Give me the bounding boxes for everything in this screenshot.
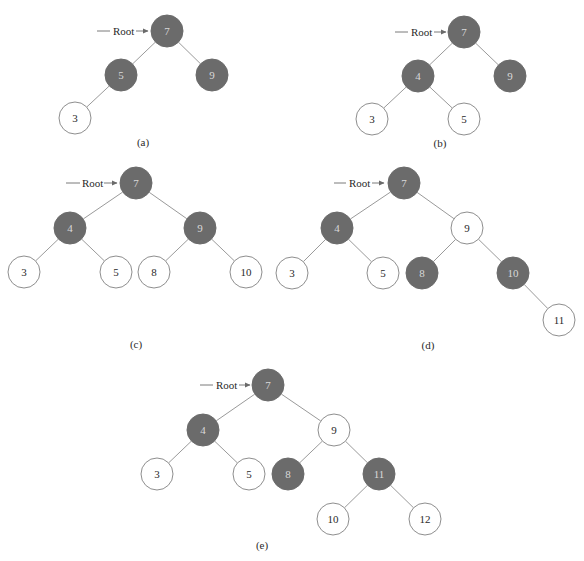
node-label: 9 bbox=[507, 70, 513, 82]
edge-4-5 bbox=[215, 441, 238, 463]
node-label: 7 bbox=[164, 25, 170, 37]
root-label: Root bbox=[216, 379, 237, 391]
node-9-black: 9 bbox=[184, 212, 216, 244]
edge-7-4 bbox=[430, 43, 453, 65]
edge-4-3 bbox=[169, 441, 192, 463]
edge-7-9 bbox=[281, 394, 321, 421]
edge-4-5 bbox=[430, 87, 453, 108]
edge-4-5 bbox=[82, 239, 105, 261]
edge-9-11 bbox=[345, 441, 367, 463]
edge-7-4 bbox=[350, 192, 390, 219]
root-label: Root bbox=[349, 177, 370, 189]
caption-a: (a) bbox=[137, 136, 150, 149]
edge-9-8 bbox=[166, 239, 189, 261]
node-label: 12 bbox=[420, 513, 431, 525]
node-label: 3 bbox=[21, 266, 27, 278]
tree-b: Root74935(b) bbox=[356, 16, 526, 150]
node-label: 7 bbox=[401, 177, 407, 189]
tree-d: Root7493581011(d) bbox=[276, 167, 575, 352]
node-label: 7 bbox=[461, 26, 467, 38]
edge-10-11 bbox=[524, 284, 548, 308]
node-5-red: 5 bbox=[100, 256, 132, 288]
node-7-black: 7 bbox=[252, 369, 284, 401]
node-label: 9 bbox=[197, 222, 203, 234]
edge-7-9 bbox=[178, 42, 200, 64]
node-8-black: 8 bbox=[406, 257, 438, 289]
node-4-black: 4 bbox=[402, 60, 434, 92]
node-label: 10 bbox=[508, 267, 520, 279]
edge-9-8 bbox=[300, 441, 323, 463]
node-label: 4 bbox=[334, 222, 340, 234]
edge-4-3 bbox=[303, 239, 325, 261]
node-4-black: 4 bbox=[54, 212, 86, 244]
node-label: 11 bbox=[554, 314, 565, 326]
node-label: 5 bbox=[380, 267, 386, 279]
node-label: 5 bbox=[246, 468, 252, 480]
edge-4-3 bbox=[36, 239, 59, 261]
tree-diagrams: Root7593(a)Root74935(b)Root74935810(c)Ro… bbox=[0, 0, 584, 561]
node-label: 3 bbox=[289, 267, 295, 279]
node-label: 5 bbox=[461, 113, 467, 125]
node-11-red: 11 bbox=[543, 304, 575, 336]
node-9-black: 9 bbox=[196, 59, 228, 91]
node-10-black: 10 bbox=[497, 257, 529, 289]
node-5-red: 5 bbox=[367, 257, 399, 289]
node-label: 9 bbox=[464, 222, 470, 234]
edge-5-3 bbox=[87, 86, 110, 107]
root-label: Root bbox=[411, 26, 432, 38]
edge-11-12 bbox=[390, 485, 413, 508]
node-10-red: 10 bbox=[230, 256, 262, 288]
node-label: 9 bbox=[331, 424, 337, 436]
node-3-red: 3 bbox=[356, 103, 388, 135]
node-label: 8 bbox=[419, 267, 425, 279]
root-label: Root bbox=[113, 25, 134, 37]
node-3-red: 3 bbox=[141, 458, 173, 490]
edge-7-5 bbox=[133, 42, 156, 64]
node-5-red: 5 bbox=[233, 458, 265, 490]
node-label: 3 bbox=[72, 112, 78, 124]
edge-7-4 bbox=[83, 192, 123, 219]
node-9-red: 9 bbox=[318, 414, 350, 446]
node-5-red: 5 bbox=[448, 103, 480, 135]
node-7-black: 7 bbox=[151, 15, 183, 47]
node-10-red: 10 bbox=[317, 503, 349, 535]
node-label: 5 bbox=[118, 69, 124, 81]
node-label: 4 bbox=[200, 424, 206, 436]
edge-7-9 bbox=[149, 192, 187, 219]
node-4-black: 4 bbox=[321, 212, 353, 244]
node-9-black: 9 bbox=[494, 60, 526, 92]
node-4-black: 4 bbox=[187, 414, 219, 446]
caption-e: (e) bbox=[256, 539, 269, 552]
node-7-black: 7 bbox=[388, 167, 420, 199]
edge-11-10 bbox=[344, 485, 367, 508]
node-label: 8 bbox=[151, 266, 157, 278]
node-label: 10 bbox=[241, 266, 253, 278]
tree-a: Root7593(a) bbox=[59, 15, 228, 149]
node-label: 9 bbox=[209, 69, 215, 81]
node-label: 7 bbox=[133, 177, 139, 189]
node-label: 3 bbox=[369, 113, 375, 125]
edge-9-10 bbox=[478, 239, 501, 262]
edge-4-3 bbox=[384, 87, 407, 108]
node-12-red: 12 bbox=[409, 503, 441, 535]
node-5-black: 5 bbox=[105, 59, 137, 91]
node-label: 5 bbox=[113, 266, 119, 278]
node-label: 8 bbox=[285, 468, 291, 480]
caption-b: (b) bbox=[434, 137, 447, 150]
edge-7-9 bbox=[417, 192, 454, 218]
edge-7-4 bbox=[216, 394, 255, 421]
caption-d: (d) bbox=[422, 339, 435, 352]
node-label: 11 bbox=[374, 468, 385, 480]
node-11-black: 11 bbox=[363, 458, 395, 490]
root-label: Root bbox=[82, 177, 103, 189]
node-label: 4 bbox=[67, 222, 73, 234]
caption-c: (c) bbox=[130, 338, 143, 351]
edge-7-9 bbox=[476, 43, 499, 65]
node-label: 4 bbox=[415, 70, 421, 82]
node-7-black: 7 bbox=[120, 167, 152, 199]
tree-c: Root74935810(c) bbox=[8, 167, 262, 351]
tree-e: Root749358111012(e) bbox=[141, 369, 441, 552]
edge-9-10 bbox=[212, 239, 235, 261]
node-8-red: 8 bbox=[138, 256, 170, 288]
node-label: 7 bbox=[265, 379, 271, 391]
